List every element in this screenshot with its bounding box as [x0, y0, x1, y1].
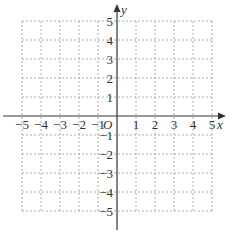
y-tick-label: −4 [99, 185, 113, 200]
x-tick-label: −4 [34, 117, 48, 132]
y-tick-label: 2 [107, 71, 114, 86]
x-tick-label: 4 [190, 117, 197, 132]
y-tick-label: 5 [107, 14, 114, 29]
y-axis-arrow-icon [114, 4, 121, 12]
origin-label: O [103, 117, 113, 132]
x-tick-label: 1 [133, 117, 140, 132]
x-axis-label: x [216, 117, 223, 132]
y-tick-label: −2 [99, 147, 113, 162]
x-tick-label: 2 [152, 117, 159, 132]
y-tick-label: −3 [99, 166, 113, 181]
y-tick-label: −5 [99, 204, 113, 219]
y-tick-label: 3 [107, 52, 114, 67]
x-tick-label: −3 [53, 117, 67, 132]
y-tick-label: 4 [107, 33, 114, 48]
x-tick-label: 3 [171, 117, 178, 132]
coordinate-plane: −5−4−3−2−11234554321−1−2−3−4−5 x y O [0, 0, 234, 233]
x-tick-label: 5 [209, 117, 216, 132]
x-tick-label: −2 [72, 117, 86, 132]
y-axis-label: y [119, 2, 127, 17]
x-tick-label: −5 [15, 117, 29, 132]
y-tick-label: 1 [107, 90, 114, 105]
